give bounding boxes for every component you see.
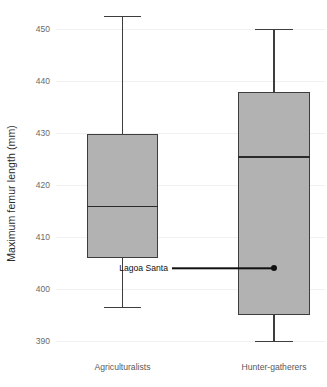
whisker-upper-cap: [255, 29, 292, 30]
annotation-point-marker: [271, 265, 277, 271]
median-line: [87, 206, 158, 208]
x-tick-label-hunter-gatherers: Hunter-gatherers: [242, 362, 307, 372]
whisker-lower-stem: [273, 315, 274, 341]
whisker-lower-cap: [104, 307, 141, 308]
median-line: [238, 156, 310, 158]
plot-area: Lagoa Santa: [0, 0, 327, 387]
whisker-lower-cap: [255, 341, 292, 342]
whisker-upper-stem: [273, 29, 274, 92]
box-plot-figure: Maximum femur length (mm) 39040041042043…: [0, 0, 327, 387]
whisker-upper-stem: [122, 16, 123, 134]
annotation-label-lagoa-santa: Lagoa Santa: [113, 263, 168, 273]
whisker-upper-cap: [104, 16, 141, 17]
box-agriculturalists: [87, 134, 158, 258]
x-tick-label-agriculturalists: Agriculturalists: [95, 362, 151, 372]
box-hunter-gatherers: [238, 92, 310, 315]
annotation-leader-line: [172, 267, 274, 268]
